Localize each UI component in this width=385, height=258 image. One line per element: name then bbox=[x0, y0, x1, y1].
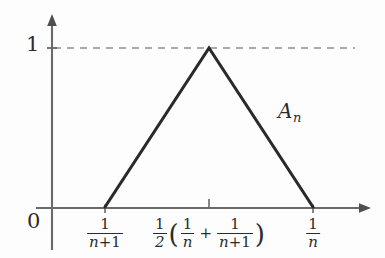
figure-container: 1 0 An 1 n+1 1 2 ( 1 n + 1 bbox=[0, 0, 385, 258]
plus-operator: + bbox=[195, 226, 216, 241]
x-tick-label-right: 1 n bbox=[305, 216, 321, 251]
y-axis-arrowhead bbox=[47, 14, 57, 26]
open-paren: ( bbox=[168, 221, 180, 247]
fraction-left: 1 n+1 bbox=[86, 217, 124, 251]
denominator: n+1 bbox=[87, 233, 123, 250]
curve-an-triangle bbox=[105, 48, 313, 207]
expression-midpoint: 1 2 ( 1 n + 1 n+1 ) bbox=[152, 217, 266, 251]
frac-one-over-n: 1 n bbox=[306, 217, 320, 251]
frac-one-half: 1 2 bbox=[153, 217, 167, 251]
denominator: 2 bbox=[153, 233, 167, 250]
x-tick-label-left: 1 n+1 bbox=[86, 216, 124, 251]
curve-label-subscript: n bbox=[293, 110, 301, 125]
denominator-variable: n bbox=[89, 233, 99, 251]
numerator: 1 bbox=[181, 217, 195, 233]
denominator-constant: 1 bbox=[111, 233, 121, 251]
frac-one-over-n-plus-one: 1 n+1 bbox=[87, 217, 123, 251]
curve-label-an: An bbox=[278, 101, 301, 124]
denominator-operator: + bbox=[99, 233, 112, 251]
y-axis-label-one: 1 bbox=[26, 34, 39, 55]
x-tick-label-middle: 1 2 ( 1 n + 1 n+1 ) bbox=[152, 216, 266, 251]
numerator: 1 bbox=[98, 217, 112, 233]
denominator: n bbox=[181, 233, 195, 250]
fraction-right: 1 n bbox=[305, 217, 321, 251]
frac-one-over-n-plus-one: 1 n+1 bbox=[217, 217, 253, 251]
denominator-variable: n bbox=[219, 233, 229, 251]
denominator: n+1 bbox=[217, 233, 253, 250]
denominator-constant: 1 bbox=[241, 233, 251, 251]
x-axis-arrowhead bbox=[359, 203, 371, 213]
denominator-operator: + bbox=[229, 233, 242, 251]
numerator: 1 bbox=[306, 217, 320, 233]
numerator: 1 bbox=[153, 217, 167, 233]
frac-one-over-n: 1 n bbox=[181, 217, 195, 251]
denominator: n bbox=[306, 233, 320, 250]
numerator: 1 bbox=[228, 217, 242, 233]
origin-label-zero: 0 bbox=[27, 211, 40, 232]
close-paren: ) bbox=[254, 221, 266, 247]
curve-label-base: A bbox=[278, 99, 292, 123]
